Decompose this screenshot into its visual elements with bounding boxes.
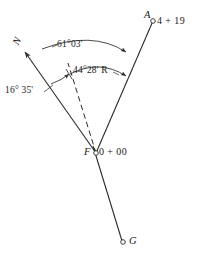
arc-16-35 [51,74,69,84]
line-f-to-a [96,22,153,153]
point-marker-f [94,151,99,156]
line-f-to-g [93,146,122,241]
line-f-tangent-dashed [68,63,96,153]
angle-label-deflection-right: 44°28' R [73,66,108,76]
point-label-f: F [84,147,90,158]
angle-label-back-azimuth: 16° 35' [5,86,33,96]
point-label-a: A [144,10,150,21]
angle-label-total-deflection: 61°03' [57,40,83,50]
diagram-canvas [0,0,208,260]
point-label-g: G [129,236,137,247]
station-label-a: 4 + 19 [157,16,185,26]
point-marker-a [151,19,156,24]
station-label-f: 0 + 00 [99,147,127,157]
leader-44-28 [113,72,119,75]
survey-angle-diagram: N 61°03' 44°28' R 16° 35' A 4 + 19 F 0 +… [0,0,208,260]
point-marker-g [121,240,126,245]
